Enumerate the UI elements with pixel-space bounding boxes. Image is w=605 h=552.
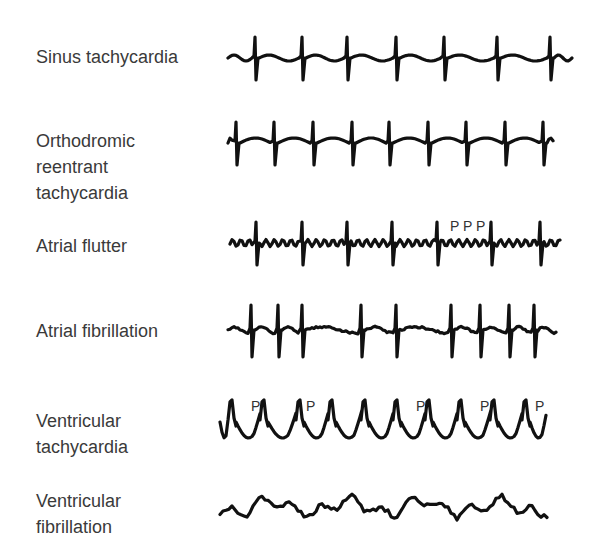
ecg-waveform (220, 400, 546, 438)
trace-ventricular-fibrillation (220, 494, 547, 520)
p-wave-marker: P (450, 218, 459, 234)
p-wave-marker: P (416, 398, 425, 414)
ecg-waveform (228, 305, 556, 357)
trace-sinus-tachycardia (228, 37, 572, 80)
ecg-traces: PPP PPPPP (0, 0, 605, 552)
p-wave-marker: P (306, 398, 315, 414)
p-wave-marker: P (535, 398, 544, 414)
ecg-waveform (220, 494, 547, 520)
ecg-waveform (228, 122, 553, 165)
trace-atrial-flutter: PPP (230, 218, 560, 265)
ecg-waveform (230, 222, 560, 265)
trace-atrial-fibrillation (228, 305, 556, 357)
trace-orthodromic-reentrant-tachycardia (228, 122, 553, 165)
p-wave-marker: P (480, 398, 489, 414)
trace-ventricular-tachycardia: PPPPP (220, 398, 546, 438)
p-wave-marker: P (476, 218, 485, 234)
ecg-waveform (228, 37, 572, 80)
p-wave-marker: P (463, 218, 472, 234)
p-wave-marker: P (251, 398, 260, 414)
